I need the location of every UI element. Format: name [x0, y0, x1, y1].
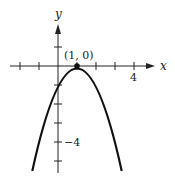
parabola-graph: x y 4 −4 (1, 0): [0, 0, 175, 181]
parabola-curve: [32, 69, 121, 172]
vertex-point: [74, 63, 80, 69]
y-axis-label: y: [54, 7, 62, 21]
x-axis-label: x: [160, 59, 167, 73]
y-tick-label-neg4: −4: [64, 136, 80, 149]
y-axis-arrow-icon: [55, 24, 61, 34]
vertex-label: (1, 0): [64, 49, 94, 62]
x-axis-arrow-icon: [146, 63, 155, 69]
x-tick-label-4: 4: [130, 71, 137, 84]
